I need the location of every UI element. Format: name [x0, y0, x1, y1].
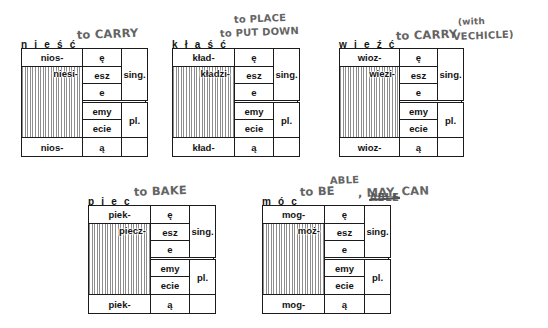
- stem-top-niesc: nios-: [21, 48, 83, 67]
- number-plural-moc: pl.: [364, 259, 391, 295]
- stem-bottom-niesc: nios-: [21, 137, 83, 157]
- conjugation-table-moc: mog- moż- mog- ę esz e emy ecie ą sing. …: [262, 205, 389, 313]
- number-plural-wiezc: pl.: [437, 102, 464, 138]
- conjugation-table-niesc: nios- niesi- nios- ę esz e emy ecie ą si…: [21, 48, 146, 156]
- stem-mid-niesc: niesi-: [21, 66, 83, 138]
- ending-2pl-piec: ecie: [150, 276, 190, 295]
- ending-1pl-klasc: emy: [234, 102, 274, 120]
- ending-2pl-moc: ecie: [324, 276, 365, 295]
- headword-row: m ó c to BE ABLE ABLE , MAY, CAN: [262, 190, 389, 205]
- gloss-piec-line1: to BAKE: [134, 185, 188, 198]
- gloss-moc-line4: , MAY, CAN: [358, 185, 430, 199]
- number-empty-klasc: [273, 137, 300, 157]
- gloss-moc-able-insert: ABLE: [330, 174, 360, 186]
- number-empty-piec: [189, 294, 216, 314]
- ending-2pl-klasc: ecie: [234, 119, 274, 138]
- headword-row: k ł a ś ć to PLACE to PUT DOWN: [172, 33, 298, 48]
- ending-2sg-moc: esz: [324, 223, 365, 241]
- stem-top-moc: mog-: [262, 205, 325, 224]
- ending-3sg-moc: e: [324, 240, 365, 258]
- ending-1sg-moc: ę: [324, 205, 365, 224]
- ending-3sg-piec: e: [150, 240, 190, 258]
- ending-1sg-piec: ę: [150, 205, 190, 224]
- headword-row: w i e ź ć to CARRY (with VECHICLE): [339, 33, 462, 48]
- stem-mid-wiezc: wiezi-: [339, 66, 400, 138]
- ending-2pl-wiezc: ecie: [399, 119, 438, 138]
- gloss-wiezc-line1: to CARRY: [396, 29, 458, 42]
- number-singular-piec: sing.: [189, 205, 216, 258]
- ending-1pl-wiezc: emy: [399, 102, 438, 120]
- ending-3pl-klasc: ą: [234, 137, 274, 157]
- ending-3pl-piec: ą: [150, 294, 190, 314]
- verb-block-piec: p i e c to BAKE piek- piecz- piek- ę esz…: [88, 190, 214, 313]
- ending-2pl-niesc: ecie: [82, 119, 122, 138]
- worksheet-sheet: n i e ś ć to CARRY nios- niesi- nios- ę …: [0, 0, 548, 328]
- ending-3pl-niesc: ą: [82, 137, 122, 157]
- gloss-wiezc-line3: VECHICLE): [453, 29, 514, 42]
- gloss-klasc-line2: to PUT DOWN: [220, 25, 300, 39]
- gloss-niesc-line1: to CARRY: [77, 28, 139, 41]
- ending-2sg-wiezc: esz: [399, 66, 438, 84]
- number-singular-moc: sing.: [364, 205, 391, 258]
- ending-3pl-moc: ą: [324, 294, 365, 314]
- ending-1pl-moc: emy: [324, 259, 365, 277]
- headword-row: p i e c to BAKE: [88, 190, 214, 205]
- ending-3pl-wiezc: ą: [399, 137, 438, 157]
- verb-block-klasc: k ł a ś ć to PLACE to PUT DOWN kład- kła…: [172, 33, 298, 156]
- gloss-wiezc-line2: (with: [458, 16, 486, 28]
- ending-1sg-niesc: ę: [82, 48, 122, 67]
- conjugation-table-klasc: kład- kładzi- kład- ę esz e emy ecie ą s…: [172, 48, 298, 156]
- stem-mid-piec: piecz-: [88, 223, 151, 295]
- gloss-klasc-line1: to PLACE: [234, 12, 287, 25]
- verb-block-wiezc: w i e ź ć to CARRY (with VECHICLE) wioz-…: [339, 33, 462, 156]
- ending-1pl-piec: emy: [150, 259, 190, 277]
- stem-mid-klasc: kładzi-: [172, 66, 235, 138]
- number-plural-piec: pl.: [189, 259, 216, 295]
- ending-1pl-niesc: emy: [82, 102, 122, 120]
- conjugation-table-wiezc: wioz- wiezi- wioz- ę esz e emy ecie ą si…: [339, 48, 462, 156]
- number-singular-klasc: sing.: [273, 48, 300, 101]
- ending-3sg-klasc: e: [234, 83, 274, 101]
- gloss-moc-line1: to BE: [300, 186, 335, 198]
- stem-top-piec: piek-: [88, 205, 151, 224]
- ending-1sg-wiezc: ę: [399, 48, 438, 67]
- number-empty-niesc: [121, 137, 148, 157]
- verb-block-niesc: n i e ś ć to CARRY nios- niesi- nios- ę …: [21, 33, 146, 156]
- number-plural-klasc: pl.: [273, 102, 300, 138]
- verb-block-moc: m ó c to BE ABLE ABLE , MAY, CAN mog- mo…: [262, 190, 389, 313]
- stem-bottom-moc: mog-: [262, 294, 325, 314]
- ending-3sg-niesc: e: [82, 83, 122, 101]
- stem-top-wiezc: wioz-: [339, 48, 400, 67]
- number-singular-niesc: sing.: [121, 48, 148, 101]
- number-empty-wiezc: [437, 137, 464, 157]
- ending-1sg-klasc: ę: [234, 48, 274, 67]
- ending-2sg-niesc: esz: [82, 66, 122, 84]
- number-plural-niesc: pl.: [121, 102, 148, 138]
- stem-top-klasc: kład-: [172, 48, 235, 67]
- number-empty-moc: [364, 294, 391, 314]
- stem-mid-moc: moż-: [262, 223, 325, 295]
- number-singular-wiezc: sing.: [437, 48, 464, 101]
- headword-row: n i e ś ć to CARRY: [21, 33, 146, 48]
- ending-3sg-wiezc: e: [399, 83, 438, 101]
- ending-2sg-piec: esz: [150, 223, 190, 241]
- stem-bottom-wiezc: wioz-: [339, 137, 400, 157]
- conjugation-table-piec: piek- piecz- piek- ę esz e emy ecie ą si…: [88, 205, 214, 313]
- stem-bottom-piec: piek-: [88, 294, 151, 314]
- stem-bottom-klasc: kład-: [172, 137, 235, 157]
- ending-2sg-klasc: esz: [234, 66, 274, 84]
